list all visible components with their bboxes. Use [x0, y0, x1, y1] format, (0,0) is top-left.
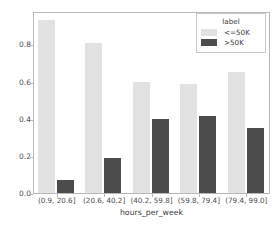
x-axis-tick-mark: [104, 194, 105, 197]
y-axis-tick-label: 0.8: [0, 40, 31, 50]
x-axis-tick-mark: [246, 194, 247, 197]
y-axis-tick-mark: [30, 194, 33, 195]
bar-le50k: [38, 20, 55, 193]
x-axis-tick-label: (79.4, 99.0]: [206, 196, 278, 206]
y-axis-tick-label: 0.2: [0, 152, 31, 162]
legend-label-le50k: <=50K: [224, 28, 250, 37]
x-axis-tick-mark: [152, 194, 153, 197]
bar-le50k: [85, 43, 102, 193]
bar-gt50k: [199, 116, 216, 193]
legend-swatch-le50k: [201, 29, 217, 36]
x-axis-tick-mark: [199, 194, 200, 197]
legend-item-le50k: <=50K: [201, 28, 261, 37]
bar-group: [81, 13, 128, 193]
bar-gt50k: [104, 158, 121, 193]
legend-title: label: [201, 17, 261, 26]
y-axis-tick-label: 0.4: [0, 115, 31, 125]
bar-le50k: [180, 84, 197, 193]
legend: label <=50K >50K: [196, 13, 266, 53]
bar-gt50k: [57, 180, 74, 193]
bar-le50k: [228, 72, 245, 193]
bar-gt50k: [152, 119, 169, 193]
legend-swatch-gt50k: [201, 39, 217, 46]
y-axis-tick-label: 0.6: [0, 78, 31, 88]
bar-chart-figure: 0.00.20.40.60.8 (0.9, 20.6](20.6, 40.2](…: [0, 0, 278, 225]
x-axis-label: hours_per_week: [33, 208, 270, 218]
bar-group: [34, 13, 81, 193]
bar-gt50k: [247, 128, 264, 193]
legend-label-gt50k: >50K: [224, 38, 244, 47]
x-axis-tick-mark: [57, 194, 58, 197]
legend-item-gt50k: >50K: [201, 38, 261, 47]
bar-le50k: [133, 82, 150, 193]
bar-group: [129, 13, 176, 193]
